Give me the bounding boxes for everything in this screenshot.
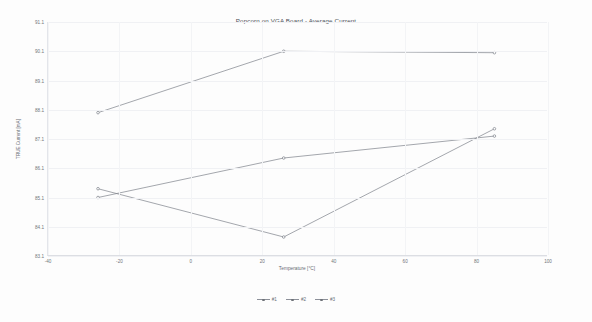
gridline-horizontal — [48, 51, 547, 52]
y-tick-label: 88.1 — [35, 107, 44, 112]
gridline-vertical — [548, 22, 549, 255]
data-point-marker — [97, 187, 100, 190]
x-tick-label: -40 — [45, 259, 52, 264]
x-tick-label: 60 — [403, 259, 408, 264]
gridline-horizontal — [48, 81, 547, 82]
series-line — [98, 129, 494, 237]
gridline-vertical — [334, 22, 335, 255]
y-tick-label: 86.1 — [35, 166, 44, 171]
y-tick-label: 90.1 — [35, 49, 44, 54]
gridline-horizontal — [48, 110, 547, 111]
gridline-vertical — [405, 22, 406, 255]
gridline-horizontal — [48, 22, 547, 23]
gridline-horizontal — [48, 139, 547, 140]
gridline-vertical — [119, 22, 120, 255]
data-point-marker — [97, 111, 100, 114]
y-tick-label: 87.1 — [35, 137, 44, 142]
y-tick-label: 83.1 — [35, 254, 44, 259]
data-point-marker — [282, 236, 285, 239]
x-tick-label: 40 — [331, 259, 336, 264]
gridline-horizontal — [48, 256, 547, 257]
gridline-vertical — [477, 22, 478, 255]
chart-figure: Popcorn on VGA Board - Average Current 8… — [0, 0, 592, 322]
legend-item[interactable]: #2 — [286, 297, 306, 302]
y-tick-label: 85.1 — [35, 195, 44, 200]
legend-item[interactable]: #1 — [257, 297, 277, 302]
data-point-marker — [282, 157, 285, 160]
gridline-vertical — [48, 22, 49, 255]
legend-label: #2 — [301, 297, 306, 302]
y-tick-label: 91.1 — [35, 20, 44, 25]
chart-legend: #1#2#3 — [0, 297, 592, 302]
data-point-marker — [493, 135, 496, 138]
y-axis-title: TRUE Current [mA] — [16, 119, 21, 159]
series-line — [98, 51, 494, 112]
series-line — [98, 136, 494, 197]
x-tick-label: 100 — [544, 259, 552, 264]
legend-marker-icon — [286, 299, 299, 300]
gridline-vertical — [191, 22, 192, 255]
legend-label: #1 — [272, 297, 277, 302]
x-tick-label: 20 — [260, 259, 265, 264]
x-tick-label: 0 — [190, 259, 193, 264]
legend-label: #3 — [330, 297, 335, 302]
gridline-horizontal — [48, 227, 547, 228]
legend-marker-icon — [315, 299, 328, 300]
data-point-marker — [493, 127, 496, 130]
x-tick-label: 80 — [474, 259, 479, 264]
x-tick-label: -20 — [116, 259, 123, 264]
gridline-vertical — [262, 22, 263, 255]
y-tick-label: 84.1 — [35, 224, 44, 229]
x-axis-title: Temperature [°C] — [47, 266, 547, 271]
gridline-horizontal — [48, 198, 547, 199]
y-tick-label: 89.1 — [35, 78, 44, 83]
plot-area: 83.184.185.186.187.188.189.190.191.1-40-… — [47, 22, 547, 256]
gridline-horizontal — [48, 168, 547, 169]
legend-marker-icon — [257, 299, 270, 300]
legend-item[interactable]: #3 — [315, 297, 335, 302]
